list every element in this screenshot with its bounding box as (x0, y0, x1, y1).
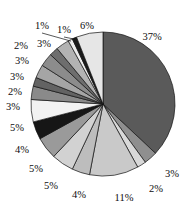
pie-slice-label: 2% (8, 86, 22, 97)
pie-chart-canvas: 37%3%2%11%4%5%5%4%5%3%2%3%3%2%3%1%1%6% (0, 0, 189, 213)
pie-slice-label: 3% (6, 101, 20, 112)
pie-slice-label: 5% (29, 163, 43, 174)
pie-slice-label: 3% (15, 55, 29, 66)
pie-slice-label: 3% (165, 168, 179, 179)
pie-slice-label: 4% (15, 144, 29, 155)
pie-slice-label: 3% (37, 38, 51, 49)
pie-slice-label: 2% (14, 40, 28, 51)
pie-slice-label: 5% (10, 122, 24, 133)
pie-slice-label: 5% (44, 180, 58, 191)
pie-slice-label: 11% (115, 192, 134, 203)
pie-chart: 37%3%2%11%4%5%5%4%5%3%2%3%3%2%3%1%1%6% (0, 0, 189, 213)
pie-slice-label: 4% (72, 189, 86, 200)
pie-slice-label: 2% (149, 183, 163, 194)
pie-slice-label: 37% (142, 31, 162, 42)
pie-slice-label: 1% (57, 24, 71, 35)
pie-slice-label: 3% (10, 71, 24, 82)
pie-slices-group (31, 32, 175, 176)
pie-slice-label: 1% (35, 20, 49, 31)
pie-slice-label: 6% (80, 20, 94, 31)
